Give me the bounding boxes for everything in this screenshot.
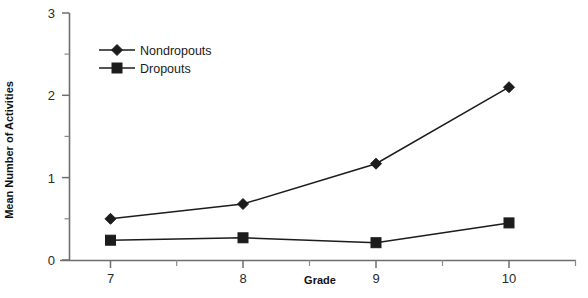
legend-item-nondropouts: Nondropouts — [99, 44, 212, 58]
legend-label-dropouts: Dropouts — [140, 62, 191, 76]
y-tick-label-3: 3 — [48, 6, 55, 21]
y-axis-title: Mean Number of Activities — [3, 81, 15, 219]
series-dropouts-point-8 — [238, 233, 248, 243]
series-dropouts — [106, 218, 515, 248]
series-nondropouts-line — [111, 87, 510, 219]
line-chart: 3 2 1 0 Mean Number of Activities 7 8 9 … — [0, 0, 588, 298]
y-axis: 3 2 1 0 Mean Number of Activities — [3, 6, 70, 268]
x-tick-label-9: 9 — [372, 271, 379, 286]
x-axis: 7 8 9 10 Grade — [60, 260, 576, 286]
series-nondropouts-point-8 — [238, 199, 249, 210]
x-axis-title: Grade — [304, 274, 336, 286]
series-nondropouts — [105, 82, 515, 225]
legend-label-nondropouts: Nondropouts — [140, 44, 212, 58]
series-dropouts-line — [111, 223, 510, 243]
series-nondropouts-point-9 — [371, 158, 382, 169]
y-tick-label-0: 0 — [48, 253, 55, 268]
chart-canvas: 3 2 1 0 Mean Number of Activities 7 8 9 … — [0, 0, 588, 298]
square-marker-icon — [112, 63, 122, 73]
series-dropouts-point-10 — [504, 218, 514, 228]
y-tick-label-1: 1 — [48, 171, 55, 186]
series-nondropouts-point-7 — [105, 213, 116, 224]
x-tick-label-10: 10 — [502, 271, 516, 286]
y-tick-label-2: 2 — [48, 88, 55, 103]
legend-item-dropouts: Dropouts — [99, 62, 191, 76]
x-tick-label-7: 7 — [107, 271, 114, 286]
chart-legend: Nondropouts Dropouts — [99, 44, 212, 76]
series-nondropouts-point-10 — [504, 82, 515, 93]
series-dropouts-point-9 — [371, 238, 381, 248]
diamond-marker-icon — [112, 45, 123, 56]
x-tick-label-8: 8 — [239, 271, 246, 286]
series-dropouts-point-7 — [106, 235, 116, 245]
